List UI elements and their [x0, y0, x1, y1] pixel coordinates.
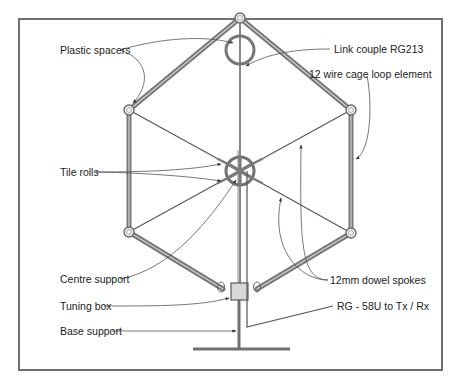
label-cage-loop: 12 wire cage loop element [309, 68, 432, 80]
label-tile-rolls: Tile rolls [60, 166, 99, 178]
centre-hub [218, 157, 262, 185]
label-centre-support: Centre support [60, 273, 130, 285]
tuning-box [231, 283, 248, 300]
label-tuning-box: Tuning box [60, 300, 112, 312]
tile-roll [218, 159, 226, 163]
antenna-diagram: Plastic spacers Link couple RG213 12 wir… [0, 0, 465, 383]
label-plastic-spacers: Plastic spacers [60, 44, 131, 56]
label-coax-feed: RG - 58U to Tx / Rx [337, 300, 430, 312]
label-base-support: Base support [60, 325, 122, 337]
label-dowel-spokes: 12mm dowel spokes [330, 274, 426, 286]
label-link-couple: Link couple RG213 [334, 43, 423, 55]
base-support [193, 300, 290, 349]
